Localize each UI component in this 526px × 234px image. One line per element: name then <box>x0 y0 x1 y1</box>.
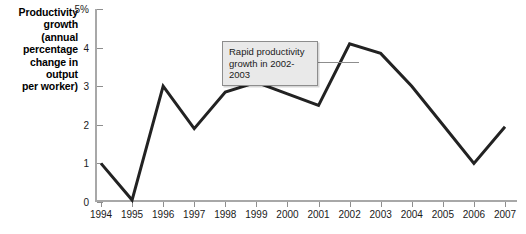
x-tick-label: 1996 <box>152 209 174 220</box>
annotation-text-line-1: Rapid productivity <box>229 46 312 58</box>
x-tick-mark <box>287 202 288 207</box>
data-series-line <box>95 9 517 202</box>
y-tick-label: 3 <box>83 81 89 92</box>
x-tick-label: 2000 <box>276 209 298 220</box>
x-tick-label: 2002 <box>338 209 360 220</box>
x-tick-label: 1999 <box>245 209 267 220</box>
y-axis-title-line: output <box>0 68 78 80</box>
x-tick-label: 2005 <box>432 209 454 220</box>
x-tick-mark <box>101 202 102 207</box>
y-tick-mark <box>97 202 103 203</box>
x-tick-label: 2007 <box>494 209 516 220</box>
y-axis-title-line: Productivity <box>0 6 78 18</box>
x-tick-label: 2001 <box>307 209 329 220</box>
y-tick-label: 2 <box>83 119 89 130</box>
x-tick-mark <box>443 202 444 207</box>
y-axis-title-line: change in <box>0 56 78 68</box>
y-axis-title-line: (annual <box>0 31 78 43</box>
x-tick-mark <box>505 202 506 207</box>
y-tick-label: 1 <box>83 158 89 169</box>
y-axis-title-line: per worker) <box>0 80 78 92</box>
plot-area: 012345% 19941995199619971998199920002001… <box>95 9 517 202</box>
x-tick-mark <box>350 202 351 207</box>
x-tick-label: 1995 <box>121 209 143 220</box>
annotation-leader-line <box>318 62 359 63</box>
x-tick-label: 1998 <box>214 209 236 220</box>
x-tick-mark <box>319 202 320 207</box>
x-tick-mark <box>381 202 382 207</box>
x-tick-label: 2004 <box>401 209 423 220</box>
x-tick-mark <box>194 202 195 207</box>
y-tick-label: 5% <box>75 4 89 15</box>
x-tick-mark <box>412 202 413 207</box>
y-axis-title: Productivitygrowth(annualpercentagechang… <box>0 6 78 93</box>
x-tick-label: 2006 <box>463 209 485 220</box>
y-axis-title-line: percentage <box>0 43 78 55</box>
y-tick-label: 0 <box>83 197 89 208</box>
y-axis-title-line: growth <box>0 18 78 30</box>
x-tick-label: 1997 <box>183 209 205 220</box>
y-tick-label: 4 <box>83 42 89 53</box>
annotation-callout: Rapid productivity growth in 2002-2003 <box>222 41 318 86</box>
annotation-text-line-2: growth in 2002-2003 <box>229 58 312 81</box>
x-tick-label: 1994 <box>90 209 112 220</box>
x-tick-mark <box>163 202 164 207</box>
x-tick-mark <box>474 202 475 207</box>
x-tick-label: 2003 <box>370 209 392 220</box>
x-tick-mark <box>225 202 226 207</box>
productivity-growth-line-chart: Productivitygrowth(annualpercentagechang… <box>0 0 526 234</box>
x-tick-mark <box>256 202 257 207</box>
